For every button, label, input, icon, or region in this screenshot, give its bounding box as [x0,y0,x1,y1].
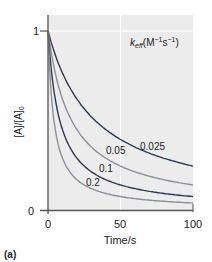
y-axis-label: [A]/[A]0 [13,106,25,137]
x-tick-label-0: 0 [45,218,51,230]
curve-label-0.025: 0.025 [140,141,165,152]
chart: 1 0 0 50 100 Time/s [A]/[A]0 keff(M−1s−1… [0,0,212,262]
y-tick-label-0: 0 [28,205,34,217]
x-axis-label: Time/s [104,234,137,246]
curve-label-0.1: 0.1 [99,163,113,174]
x-tick-label-50: 50 [114,218,126,230]
x-tick-label-100: 100 [184,218,202,230]
curve-label-0.05: 0.05 [106,145,126,156]
curve-label-0.2: 0.2 [86,177,100,188]
y-tick-label-1: 1 [33,25,39,37]
panel-label: (a) [4,249,16,260]
